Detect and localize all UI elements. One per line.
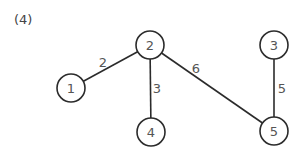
node-4-label: 4 — [147, 125, 155, 140]
node-2: 2 — [136, 31, 164, 59]
edge-weight-1-2: 2 — [99, 55, 107, 70]
node-4: 4 — [137, 118, 165, 146]
node-5-label: 5 — [270, 124, 278, 139]
edge-weight-3-5: 5 — [278, 81, 286, 96]
node-3: 3 — [260, 31, 288, 59]
node-3-label: 3 — [270, 38, 278, 53]
edge-2-5 — [150, 45, 274, 131]
node-2-label: 2 — [146, 38, 154, 53]
edge-weight-2-5: 6 — [192, 61, 200, 76]
edge-labels: 2 3 6 5 — [99, 55, 286, 96]
node-1: 1 — [57, 74, 85, 102]
weighted-graph: 2 3 6 5 1 2 3 4 5 — [0, 0, 306, 156]
node-1-label: 1 — [67, 81, 75, 96]
nodes: 1 2 3 4 5 — [57, 31, 288, 146]
edge-weight-2-4: 3 — [153, 81, 161, 96]
node-5: 5 — [260, 117, 288, 145]
